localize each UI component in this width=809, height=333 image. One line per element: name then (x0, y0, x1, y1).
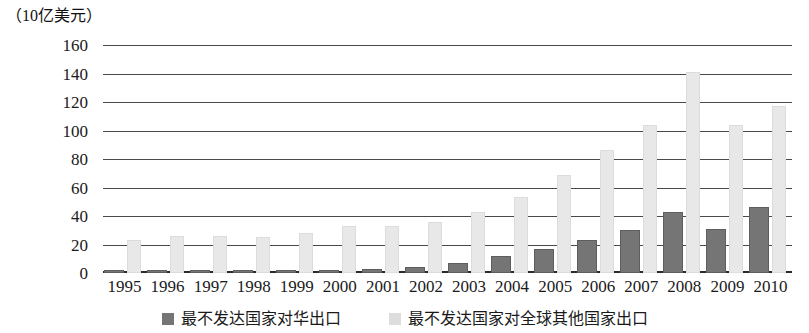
legend-label: 最不发达国家对华出口 (181, 309, 341, 329)
bar-group (146, 45, 189, 273)
x-tick-label: 2002 (409, 276, 443, 298)
bar-exports-to-china (233, 270, 253, 273)
bar-exports-to-china (749, 207, 769, 273)
x-tick-label: 2008 (667, 276, 701, 298)
bar-exports-to-china (706, 229, 726, 273)
x-tick-label: 1999 (280, 276, 314, 298)
bar-group (275, 45, 318, 273)
bar-exports-to-rest-of-world (256, 237, 270, 273)
bar-group (404, 45, 447, 273)
bar-exports-to-china (190, 270, 210, 273)
y-axis-unit-label: （10亿美元） (6, 6, 102, 26)
bar-group (232, 45, 275, 273)
bar-exports-to-rest-of-world (686, 72, 700, 273)
chart-legend: 最不发达国家对华出口最不发达国家对全球其他国家出口 (0, 304, 809, 333)
y-tick-label: 100 (63, 122, 89, 139)
y-tick-label: 140 (63, 65, 89, 82)
bar-exports-to-rest-of-world (385, 226, 399, 273)
y-tick-label: 20 (71, 236, 88, 253)
bar-group (663, 45, 706, 273)
x-tick-label: 1998 (237, 276, 271, 298)
bar-exports-to-rest-of-world (471, 212, 485, 273)
x-tick-label: 2010 (753, 276, 787, 298)
y-tick-label: 40 (71, 208, 88, 225)
legend-item: 最不发达国家对全球其他国家出口 (389, 309, 648, 329)
bar-exports-to-rest-of-world (213, 236, 227, 273)
y-tick-label: 80 (71, 151, 88, 168)
bar-exports-to-china (147, 270, 167, 273)
bar-exports-to-rest-of-world (729, 125, 743, 273)
y-tick-label: 120 (63, 94, 89, 111)
y-tick-label: 60 (71, 179, 88, 196)
x-tick-label: 2007 (624, 276, 658, 298)
bar-exports-to-rest-of-world (600, 150, 614, 273)
bar-group (620, 45, 663, 273)
bar-exports-to-rest-of-world (514, 197, 528, 273)
bar-exports-to-rest-of-world (557, 175, 571, 273)
bar-exports-to-china (405, 267, 425, 273)
bar-exports-to-rest-of-world (772, 106, 786, 273)
bar-group (706, 45, 749, 273)
bar-exports-to-rest-of-world (428, 222, 442, 273)
bar-exports-to-rest-of-world (643, 125, 657, 273)
x-tick-label: 1997 (194, 276, 228, 298)
x-tick-label: 2001 (366, 276, 400, 298)
legend-swatch-icon (162, 313, 174, 325)
bar-exports-to-rest-of-world (127, 240, 141, 273)
bar-exports-to-china (319, 270, 339, 273)
bar-exports-to-china (276, 270, 296, 273)
y-tick-label: 0 (80, 265, 89, 282)
x-tick-label: 2003 (452, 276, 486, 298)
bar-group (534, 45, 577, 273)
bar-exports-to-rest-of-world (170, 236, 184, 273)
x-tick-label: 2004 (495, 276, 529, 298)
y-tick-label: 160 (63, 37, 89, 54)
x-tick-label: 2005 (538, 276, 572, 298)
bar-group (448, 45, 491, 273)
bar-group (361, 45, 404, 273)
legend-label: 最不发达国家对全球其他国家出口 (408, 309, 648, 329)
bar-group (189, 45, 232, 273)
bar-exports-to-china (362, 269, 382, 273)
y-axis-tick-labels: 160140120100806040200 (20, 45, 96, 273)
bar-exports-to-china (663, 212, 683, 273)
bar-group (577, 45, 620, 273)
legend-item: 最不发达国家对华出口 (162, 309, 341, 329)
bar-exports-to-rest-of-world (342, 226, 356, 273)
legend-swatch-icon (389, 313, 401, 325)
x-axis-tick-labels: 1995199619971998199920002001200220032004… (103, 276, 792, 300)
x-tick-label: 2006 (581, 276, 615, 298)
bar-group (103, 45, 146, 273)
x-tick-label: 2000 (323, 276, 357, 298)
bar-exports-to-china (491, 256, 511, 273)
bar-exports-to-china (577, 240, 597, 273)
bar-chart: （10亿美元） 160140120100806040200 1995199619… (0, 0, 809, 333)
bar-exports-to-china (620, 230, 640, 273)
plot-bars (103, 45, 792, 273)
bar-exports-to-rest-of-world (299, 233, 313, 273)
x-tick-label: 1995 (108, 276, 142, 298)
bar-group (318, 45, 361, 273)
bar-exports-to-china (104, 270, 124, 273)
bar-exports-to-china (534, 249, 554, 273)
bar-group (749, 45, 792, 273)
bar-group (491, 45, 534, 273)
x-tick-label: 2009 (710, 276, 744, 298)
bar-exports-to-china (448, 263, 468, 273)
x-tick-label: 1996 (151, 276, 185, 298)
